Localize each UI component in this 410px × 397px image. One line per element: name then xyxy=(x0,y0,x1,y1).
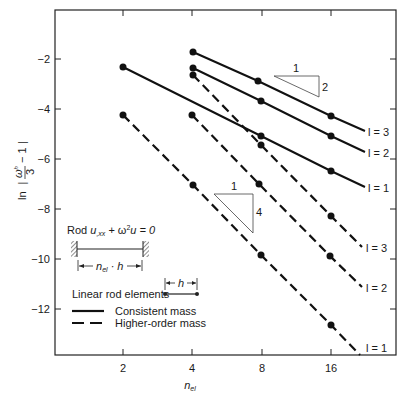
line-consistent-l2 xyxy=(193,68,365,152)
y-tick-labels: −2 −4 −6 −8 −10 −12 xyxy=(31,53,50,315)
svg-text:− 1: − 1 xyxy=(16,147,28,163)
y-tick-minus4: −4 xyxy=(37,103,50,115)
x-tick-16: 16 xyxy=(325,362,337,374)
y-tick-minus8: −8 xyxy=(37,203,50,215)
label-consistent-l1: l = 1 xyxy=(368,182,389,194)
y-tick-minus6: −6 xyxy=(37,153,50,165)
legend-consistent: Consistent mass xyxy=(115,305,197,317)
label-higher-l1: l = 1 xyxy=(366,342,387,354)
data-points xyxy=(120,49,335,329)
x-ticks xyxy=(123,10,331,355)
label-higher-l3: l = 3 xyxy=(366,242,387,254)
x-tick-labels: 2 4 8 16 xyxy=(120,362,337,374)
label-consistent-l2: l = 2 xyxy=(368,147,389,159)
svg-text:1: 1 xyxy=(231,180,237,192)
line-consistent-l3 xyxy=(193,52,365,131)
svg-text:|: | xyxy=(16,141,28,144)
x-tick-2: 2 xyxy=(120,362,126,374)
svg-text:ωh: ωh xyxy=(12,165,24,178)
legend-higher-order: Higher-order mass xyxy=(115,317,207,329)
line-higher-l3 xyxy=(193,75,362,247)
line-higher-l2 xyxy=(192,115,362,287)
x-tick-8: 8 xyxy=(259,362,265,374)
y-tick-minus10: −10 xyxy=(31,253,50,265)
x-tick-4: 4 xyxy=(189,362,195,374)
label-higher-l2: l = 2 xyxy=(366,282,387,294)
svg-text:1: 1 xyxy=(293,62,299,74)
slope-triangle-4: 1 4 xyxy=(214,180,262,233)
element-diagram: h Linear rod elements xyxy=(72,277,199,300)
rod-diagram: Rod u,xx + ω2u = 0 nel · h xyxy=(67,224,156,273)
series-consistent xyxy=(123,52,365,187)
y-tick-minus12: −12 xyxy=(31,303,50,315)
x-axis-title: nel xyxy=(184,379,196,392)
svg-text:Rod u,xx + ω2u = 0: Rod u,xx + ω2u = 0 xyxy=(67,224,156,237)
svg-text:h: h xyxy=(178,277,184,289)
svg-text:3: 3 xyxy=(24,169,36,175)
convergence-chart: 2 4 8 16 −2 −4 −6 −8 −10 −12 nel ln | ωh… xyxy=(0,0,410,397)
svg-text:4: 4 xyxy=(256,206,262,218)
legend: Consistent mass Higher-order mass xyxy=(72,305,207,329)
svg-text:ln |: ln | xyxy=(16,182,28,200)
series-labels: l = 3 l = 2 l = 1 l = 3 l = 2 l = 1 xyxy=(366,126,389,354)
plot-frame xyxy=(55,10,396,355)
svg-text:2: 2 xyxy=(322,81,328,93)
linear-rod-label: Linear rod elements xyxy=(72,288,170,300)
y-axis-title: ln | ωh 3 − 1 | xyxy=(12,141,36,200)
svg-text:nel · h: nel · h xyxy=(96,260,123,273)
y-tick-minus2: −2 xyxy=(37,53,50,65)
label-consistent-l3: l = 3 xyxy=(368,126,389,138)
